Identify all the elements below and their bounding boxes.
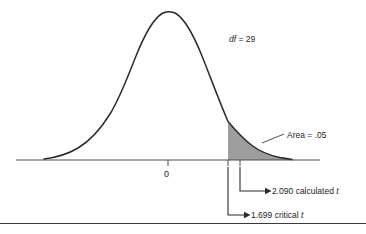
bottom-divider xyxy=(0,223,366,224)
calculated-t-arrowhead xyxy=(265,188,272,194)
critical-t-text: critical xyxy=(272,210,301,220)
critical-t-symbol: t xyxy=(301,210,303,220)
calculated-t-connector xyxy=(240,167,266,191)
critical-t-value: 1.699 xyxy=(251,210,272,220)
axis-origin-label: 0 xyxy=(164,170,169,179)
df-value: 29 xyxy=(246,34,255,44)
critical-t-label: 1.699 critical t xyxy=(251,211,303,220)
area-leader-line xyxy=(262,134,284,143)
tail-area-label: Area = .05 xyxy=(287,131,326,140)
calculated-t-value: 2.090 xyxy=(272,186,293,196)
calculated-t-symbol: t xyxy=(336,186,338,196)
rejection-region-shading xyxy=(228,122,292,161)
calculated-t-label: 2.090 calculated t xyxy=(272,187,339,196)
t-distribution-figure xyxy=(0,0,366,234)
degrees-of-freedom-label: df = 29 xyxy=(229,35,255,44)
calculated-t-text: calculated xyxy=(293,186,336,196)
df-equals: = xyxy=(236,34,246,44)
critical-t-arrowhead xyxy=(244,212,251,218)
